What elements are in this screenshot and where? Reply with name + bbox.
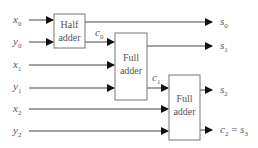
diagram-canvas: x0 y0 x1 y1 x2 y2 Half adder Full adder … [0,0,258,148]
input-label-y2: y2 [12,124,22,139]
full-adder-2-label-1: Full [176,93,192,104]
adder-diagram: x0 y0 x1 y1 x2 y2 Half adder Full adder … [0,0,258,148]
full-adder-2-label-2: adder [173,106,196,117]
output-label-s1: s1 [220,39,228,54]
carry-label-c0: c0 [95,26,104,41]
input-label-y1: y1 [12,80,22,95]
input-label-x0: x0 [12,13,22,28]
full-adder-1-label-1: Full [123,52,139,63]
output-label-s2: s2 [220,83,228,98]
input-label-x1: x1 [12,58,22,73]
output-label-c2-s3: c2 = s3 [220,123,248,138]
output-label-s0: s0 [220,15,228,30]
input-label-x2: x2 [12,102,22,117]
input-label-y0: y0 [12,35,22,50]
half-adder-label-2: adder [58,32,81,43]
carry-label-c1: c1 [152,71,161,86]
half-adder-label-1: Half [61,19,79,30]
full-adder-1-label-2: adder [120,65,143,76]
